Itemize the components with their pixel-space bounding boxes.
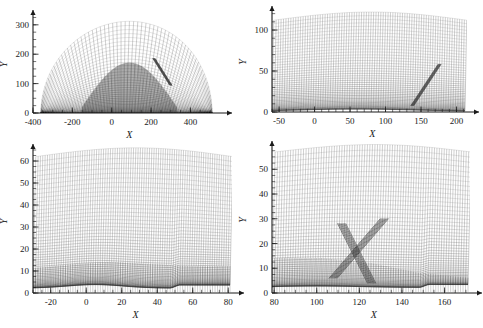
panel-bottom-right-ytick-label: 20 <box>259 239 269 249</box>
panel-bottom-right-xtick-label: 160 <box>438 297 452 307</box>
panel-bottom-right-xaxis-title: X <box>370 309 378 320</box>
mesh-figure: -400-20002004000100200300XY-500501001502… <box>0 0 483 328</box>
panel-bottom-right-xtick-label: 100 <box>310 297 324 307</box>
panel-bottom-right-yaxis-title: Y <box>237 216 248 223</box>
panel-bottom-right-flow-features <box>272 219 468 292</box>
panel-bottom-right-ytick-label: 0 <box>264 288 269 298</box>
panel-bottom-right-mesh <box>272 145 471 288</box>
panel-bottom-right-ytick-label: 10 <box>259 263 269 273</box>
panel-bottom-right-ytick-label: 30 <box>259 214 269 224</box>
panel-bottom-right-xtick-label: 80 <box>270 297 280 307</box>
panel-bottom-right: 8010012014016001020304050XY <box>0 0 483 328</box>
panel-bottom-right-ytick-label: 40 <box>259 189 269 199</box>
panel-bottom-right-xtick-label: 140 <box>395 297 409 307</box>
panel-bottom-right-ytick-label: 50 <box>259 164 269 174</box>
panel-bottom-right-axes: 8010012014016001020304050XY <box>237 141 482 320</box>
panel-bottom-right-xtick-label: 120 <box>353 297 367 307</box>
